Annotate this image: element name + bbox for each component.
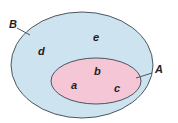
set-b-label: B bbox=[9, 18, 17, 30]
element-c: c bbox=[114, 82, 120, 94]
element-d: d bbox=[38, 45, 45, 57]
venn-diagram: B A d e b a c bbox=[0, 0, 178, 123]
element-e: e bbox=[93, 31, 99, 43]
element-a: a bbox=[71, 79, 77, 91]
set-a-label: A bbox=[154, 63, 163, 75]
element-b: b bbox=[94, 65, 101, 77]
